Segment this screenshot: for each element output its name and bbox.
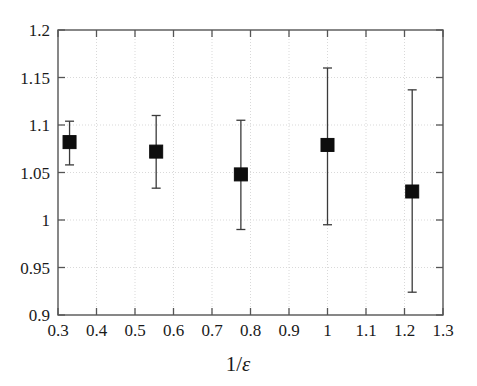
x-tick-label: 0.3 (47, 321, 68, 340)
epsilon-symbol: ε (242, 352, 251, 376)
y-tick-label: 1.15 (20, 69, 50, 88)
x-tick-label: 0.4 (86, 321, 108, 340)
x-tick-label: 1.2 (394, 321, 415, 340)
x-axis-title: 1/ε (226, 352, 251, 376)
chart-figure: 0.30.40.50.60.70.80.911.11.21.3 0.90.951… (0, 0, 477, 386)
data-marker (234, 168, 247, 181)
x-tick-label: 0.7 (201, 321, 223, 340)
y-tick-label: 1.1 (29, 116, 50, 135)
y-tick-label: 0.95 (20, 259, 50, 278)
x-tick-label: 0.5 (124, 321, 145, 340)
x-tick-label: 0.8 (240, 321, 261, 340)
x-tick-label: 1.1 (355, 321, 376, 340)
y-tick-label: 0.9 (29, 306, 50, 325)
scatter-errorbar-plot: 0.30.40.50.60.70.80.911.11.21.3 0.90.951… (0, 0, 477, 386)
x-axis-title-numerator: 1/ (226, 352, 243, 376)
x-tick-label: 1.3 (432, 321, 453, 340)
y-tick-label: 1.05 (20, 164, 50, 183)
data-marker (63, 136, 76, 149)
x-tick-label: 0.9 (278, 321, 299, 340)
y-axis-tick-labels: 0.90.9511.051.11.151.2 (20, 21, 50, 325)
x-tick-label: 0.6 (163, 321, 184, 340)
x-axis-tick-labels: 0.30.40.50.60.70.80.911.11.21.3 (47, 321, 453, 340)
y-tick-label: 1 (42, 211, 51, 230)
data-marker (406, 185, 419, 198)
y-tick-label: 1.2 (29, 21, 50, 40)
data-marker (321, 138, 334, 151)
x-tick-label: 1 (323, 321, 332, 340)
data-marker (150, 145, 163, 158)
